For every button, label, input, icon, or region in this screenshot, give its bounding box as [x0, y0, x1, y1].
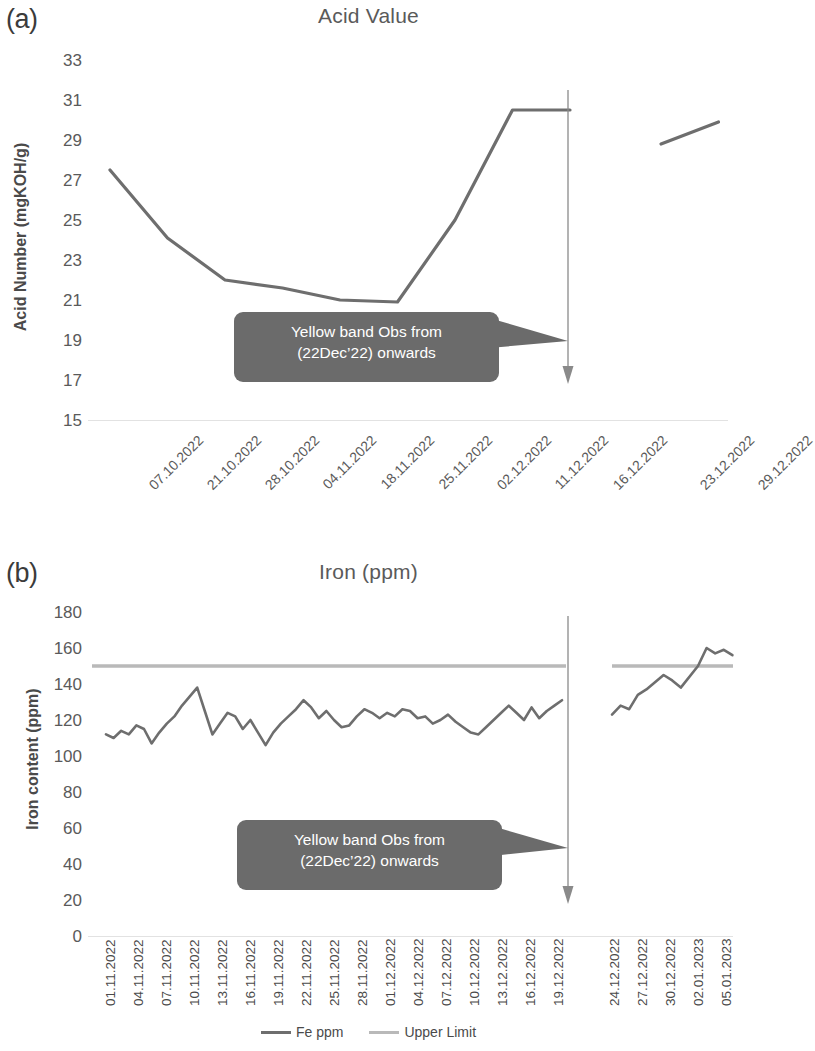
x-tick-b-0: 01.11.2022 — [103, 939, 118, 1006]
callout-pointer-iron — [492, 826, 568, 856]
callout-yellow-band-iron: Yellow band Obs from (22Dec’22) onwards — [237, 820, 502, 890]
plot-area-acid — [0, 0, 737, 540]
x-tick-b-7: 22.11.2022 — [299, 939, 314, 1006]
x-tick-b-22: 05.01.2023 — [719, 938, 734, 1006]
x-tick-a-11: 29.12.2022 — [755, 432, 815, 493]
series-line-fe-ppm-after-gap — [612, 648, 732, 715]
x-tick-b-14: 13.12.2022 — [495, 938, 510, 1006]
series-line-acid-number — [110, 110, 570, 302]
x-tick-b-13: 10.12.2022 — [467, 938, 482, 1006]
divider-arrowhead-iron — [563, 886, 574, 904]
x-tick-b-4: 13.11.2022 — [215, 939, 230, 1006]
callout-yellow-band-acid: Yellow band Obs from (22Dec’22) onwards — [234, 312, 499, 382]
callout-line-2: (22Dec’22) onwards — [234, 342, 499, 363]
x-tick-b-12: 07.12.2022 — [439, 938, 454, 1006]
x-tick-b-11: 04.12.2022 — [411, 938, 426, 1006]
callout-line-1: Yellow band Obs from — [234, 321, 499, 342]
x-tick-b-20: 30.12.2022 — [663, 938, 678, 1006]
x-tick-b-2: 07.11.2022 — [159, 939, 174, 1006]
panel-acid-value: (a) Acid Value Acid Number (mgKOH/g) 33 … — [0, 0, 737, 540]
legend-label-upper-limit: Upper Limit — [404, 1024, 476, 1040]
x-tick-b-5: 16.11.2022 — [243, 939, 258, 1006]
legend-item-fe-ppm: Fe ppm — [261, 1024, 343, 1040]
legend-swatch-fe-ppm — [261, 1031, 291, 1034]
x-tick-b-8: 25.11.2022 — [327, 939, 342, 1006]
legend-swatch-upper-limit — [369, 1031, 399, 1034]
series-line-fe-ppm — [106, 688, 562, 746]
x-tick-b-16: 19.12.2022 — [551, 938, 566, 1006]
x-tick-b-1: 04.11.2022 — [131, 939, 146, 1006]
x-tick-b-3: 10.11.2022 — [187, 939, 202, 1006]
legend-iron: Fe ppm Upper Limit — [0, 1024, 737, 1040]
callout-line-2: (22Dec’22) onwards — [237, 850, 502, 871]
x-tick-b-21: 02.01.2023 — [691, 938, 706, 1006]
x-tick-b-18: 24.12.2022 — [607, 938, 622, 1006]
panel-iron-ppm: (b) Iron (ppm) Iron content (ppm) 180 16… — [0, 540, 737, 1051]
callout-line-1: Yellow band Obs from — [237, 829, 502, 850]
x-tick-b-10: 01.12.2022 — [383, 938, 398, 1006]
divider-arrowhead-acid — [563, 366, 574, 384]
x-tick-b-15: 16.12.2022 — [523, 938, 538, 1006]
callout-pointer-acid — [489, 318, 568, 348]
x-tick-b-19: 27.12.2022 — [635, 938, 650, 1006]
x-tick-b-6: 19.11.2022 — [271, 939, 286, 1006]
series-line-acid-number-after-gap — [661, 122, 719, 144]
legend-item-upper-limit: Upper Limit — [369, 1024, 476, 1040]
legend-label-fe-ppm: Fe ppm — [296, 1024, 343, 1040]
x-tick-b-9: 28.11.2022 — [355, 939, 370, 1006]
